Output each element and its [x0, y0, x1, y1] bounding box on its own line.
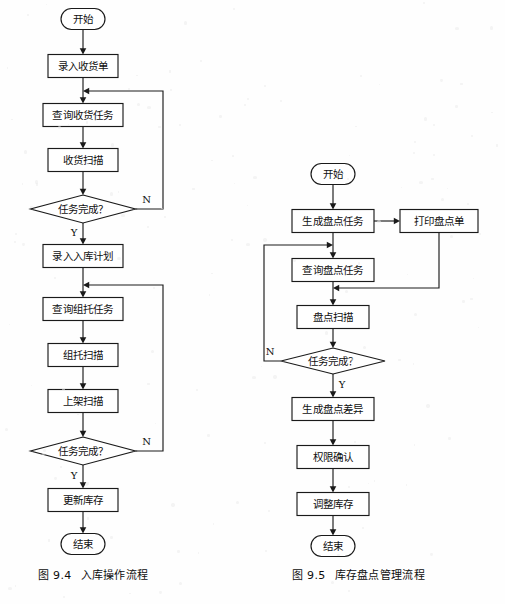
edge-r-e6: [330, 421, 337, 446]
node-r-end[interactable]: 结束: [311, 536, 355, 557]
arrowhead-down: [80, 142, 87, 148]
arrowhead-right: [327, 242, 333, 249]
arrowhead-left: [83, 88, 89, 95]
figure-caption-title: 入库操作流程: [81, 569, 149, 582]
arrowhead-down: [330, 439, 337, 445]
node-l-p3[interactable]: 收货扫描: [48, 149, 118, 172]
node-r-p2[interactable]: 查询盘点任务: [292, 259, 374, 282]
arrowhead-down: [330, 529, 337, 535]
node-r-p3[interactable]: 盘点扫描: [297, 306, 369, 329]
node-label: 生成盘点任务: [302, 215, 364, 227]
node-r-print[interactable]: 打印盘点单: [400, 210, 478, 233]
node-label: 收货扫描: [63, 154, 104, 166]
node-l-p7[interactable]: 上架扫描: [48, 390, 118, 413]
node-label: 调整库存: [313, 498, 355, 510]
node-label: 权限确认: [313, 451, 355, 463]
node-r-start[interactable]: 开始: [311, 164, 355, 185]
scanned-page: YYNN开始录入收货单查询收货任务收货扫描任务完成？录入入库计划查询组托任务组托…: [0, 0, 505, 604]
node-l-d1[interactable]: 任务完成？: [31, 195, 136, 223]
arrowhead-down: [80, 238, 87, 244]
edge-label-N: N: [266, 346, 275, 357]
node-l-start[interactable]: 开始: [61, 9, 105, 30]
node-layer: 开始生成盘点任务打印盘点单查询盘点任务盘点扫描任务完成？生成盘点差异权限确认调整…: [281, 164, 478, 557]
arrowhead-down: [80, 291, 87, 297]
arrowhead-down: [80, 527, 87, 533]
arrowhead-down: [330, 203, 337, 209]
node-label: 任务完成？: [58, 445, 109, 457]
flowchart-canvas: YYNN开始录入收货单查询收货任务收货扫描任务完成？录入入库计划查询组托任务组托…: [0, 0, 505, 604]
node-r-p1[interactable]: 生成盘点任务: [292, 210, 374, 233]
node-l-p4[interactable]: 录入入库计划: [43, 245, 123, 268]
arrowhead-down: [330, 391, 337, 397]
edge-r-e1: [330, 185, 337, 210]
node-l-p5[interactable]: 查询组托任务: [43, 298, 123, 321]
arrowhead-down: [80, 431, 87, 437]
node-label: 上架扫描: [63, 395, 104, 407]
figure-caption-9-5: 图 9.5库存盘点管理流程: [292, 566, 425, 582]
edge-label-N: N: [142, 436, 151, 447]
flowchart-fig-9-5: YN开始生成盘点任务打印盘点单查询盘点任务盘点扫描任务完成？生成盘点差异权限确认…: [264, 164, 478, 557]
arrowhead-down: [80, 97, 87, 103]
node-r-p5[interactable]: 权限确认: [297, 446, 369, 469]
edge-l-e9: [80, 413, 87, 438]
figure-caption-number: 图 9.5: [292, 569, 326, 582]
edge-r-e7: [330, 469, 337, 493]
node-label: 录入入库计划: [52, 250, 113, 262]
node-label: 盘点扫描: [313, 311, 354, 323]
arrowhead-down: [330, 299, 337, 305]
edge-l-e4: [80, 172, 87, 196]
node-label: 任务完成？: [58, 203, 109, 215]
edge-label-N: N: [142, 194, 151, 205]
node-label: 结束: [73, 538, 94, 550]
edge-label-Y: Y: [70, 227, 78, 238]
edge-l-e8: [80, 367, 87, 390]
edge-l-e11: [80, 512, 87, 534]
arrowhead-right: [394, 218, 400, 225]
node-label: 更新库存: [63, 494, 105, 506]
node-label: 生成盘点差异: [302, 403, 363, 415]
node-label: 结束: [323, 540, 344, 552]
arrowhead-down: [80, 189, 87, 195]
edge-l-e7: [80, 321, 87, 344]
node-l-end[interactable]: 结束: [61, 534, 105, 555]
node-label: 打印盘点单: [414, 215, 465, 227]
edge-label-Y: Y: [338, 379, 346, 390]
edge-r-e5: Y: [330, 374, 346, 398]
node-l-p2[interactable]: 查询收货任务: [43, 104, 123, 127]
arrowhead-down: [330, 252, 337, 258]
node-r-p4[interactable]: 生成盘点差异: [292, 398, 374, 421]
node-l-p1[interactable]: 录入收货单: [48, 55, 118, 78]
arrowhead-down: [80, 482, 87, 488]
arrowhead-down: [330, 486, 337, 492]
node-label: 组托扫描: [63, 349, 104, 361]
node-r-p6[interactable]: 调整库存: [297, 493, 369, 516]
node-label: 查询盘点任务: [302, 264, 364, 276]
node-label: 查询组托任务: [52, 303, 114, 315]
arrowhead-down: [330, 342, 337, 348]
edge-r-e9: [374, 218, 400, 225]
arrowhead-left: [83, 282, 89, 289]
edge-r-e4: [330, 329, 337, 349]
edge-l-e1: [80, 30, 87, 55]
figure-caption-number: 图 9.4: [38, 569, 72, 582]
edge-label-Y: Y: [70, 470, 78, 481]
arrowhead-down: [80, 48, 87, 54]
edge-r-e8: [330, 516, 337, 536]
node-label: 开始: [323, 168, 344, 180]
edge-l-e6: [80, 268, 87, 298]
node-l-p8[interactable]: 更新库存: [48, 489, 118, 512]
edge-l-e3: [80, 127, 87, 149]
node-l-d2[interactable]: 任务完成？: [31, 437, 136, 465]
arrowhead-down: [80, 337, 87, 343]
flowchart-fig-9-4: YYNN开始录入收货单查询收货任务收货扫描任务完成？录入入库计划查询组托任务组托…: [31, 9, 164, 555]
figure-caption-9-4: 图 9.4入库操作流程: [38, 566, 148, 582]
arrowhead-down: [80, 383, 87, 389]
node-label: 查询收货任务: [52, 109, 114, 121]
figure-caption-title: 库存盘点管理流程: [335, 569, 425, 582]
arrowhead-left: [333, 285, 339, 292]
node-label: 任务完成？: [308, 355, 359, 367]
node-l-p6[interactable]: 组托扫描: [48, 344, 118, 367]
node-r-d1[interactable]: 任务完成？: [281, 348, 385, 374]
edge-l-e5: Y: [70, 223, 87, 245]
edge-l-e10: Y: [70, 465, 87, 489]
